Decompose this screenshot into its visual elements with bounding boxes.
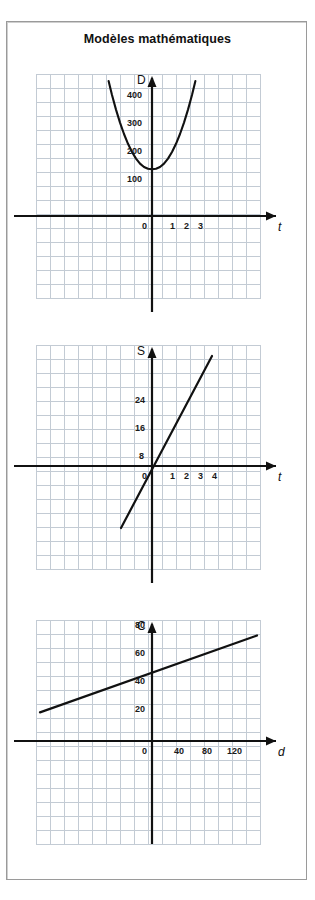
xtick-label-d-t: 0 (142, 222, 147, 231)
figure-title: Modèles mathématiques (7, 32, 308, 46)
xtick-label-c-d: 120 (227, 747, 242, 756)
xtick-label-c-d: 40 (174, 747, 184, 756)
xtick-label-d-t: 1 (170, 222, 175, 231)
xtick-label-s-t: 2 (184, 472, 189, 481)
axes-s-t (36, 345, 298, 585)
chart-s-t: 24 16 8 0 1 2 3 4 S t (36, 345, 276, 585)
xtick-label-s-t: 0 (142, 472, 147, 481)
ytick-label-s-t: 16 (135, 424, 145, 433)
x-axis-label-t: t (278, 471, 281, 483)
ytick-label-c-d: 60 (135, 649, 145, 658)
y-axis-label-s: S (137, 345, 145, 357)
xtick-label-d-t: 3 (198, 222, 203, 231)
ytick-label-s-t: 8 (139, 452, 144, 461)
ytick-label-d-t: 400 (127, 91, 142, 100)
xtick-label-s-t: 4 (212, 472, 217, 481)
chart-c-d: 80 60 40 20 0 40 80 120 C d (36, 606, 276, 846)
xtick-label-d-t: 2 (184, 222, 189, 231)
axes-d-t (36, 74, 298, 314)
ytick-label-d-t: 200 (127, 147, 142, 156)
ytick-label-s-t: 24 (135, 396, 145, 405)
xtick-label-s-t: 3 (198, 472, 203, 481)
ytick-label-c-d: 40 (135, 677, 145, 686)
x-axis-label-d: d (278, 746, 285, 758)
ytick-label-c-d: 20 (135, 705, 145, 714)
x-axis-label-t: t (278, 221, 281, 233)
chart-d-t: 400 300 200 100 0 1 2 3 D t (36, 74, 276, 314)
xtick-label-c-d: 80 (202, 747, 212, 756)
y-axis-label-c: C (137, 620, 146, 632)
ytick-label-d-t: 100 (127, 175, 142, 184)
figure-frame: Modèles mathématiques 400 300 200 100 0 … (6, 21, 307, 880)
ytick-label-d-t: 300 (127, 119, 142, 128)
xtick-label-s-t: 1 (170, 472, 175, 481)
y-axis-label-d: D (137, 74, 146, 86)
figure-page: Modèles mathématiques 400 300 200 100 0 … (0, 0, 315, 900)
axes-c-d (36, 606, 298, 846)
xtick-label-c-d: 0 (142, 747, 147, 756)
